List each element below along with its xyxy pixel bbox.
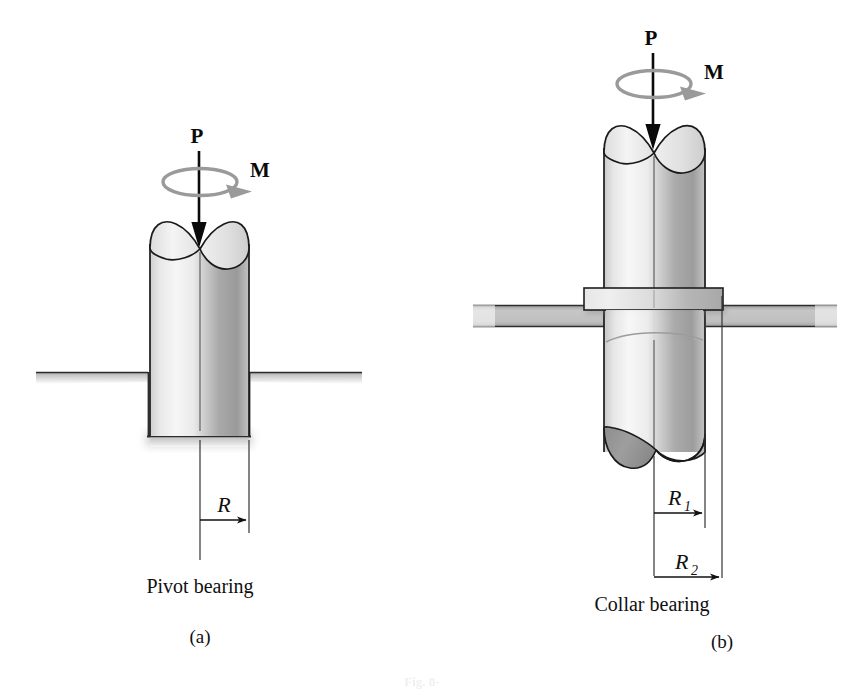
load-label-P-a: P (191, 124, 204, 148)
dimension-R-a: R (200, 440, 249, 560)
subfigure-collar-bearing: P M (473, 26, 837, 653)
part-label-b: (b) (711, 631, 733, 653)
engineering-figure: P M (0, 0, 845, 689)
shaft-below-collar-b (606, 310, 703, 342)
load-label-M-a: M (250, 158, 270, 182)
subfigure-pivot-bearing: P M (36, 124, 362, 648)
part-label-a: (a) (189, 626, 210, 648)
caption-pivot-bearing: Pivot bearing (146, 575, 253, 598)
figure-caption-fragment: Fig. 8- (404, 674, 439, 689)
dim-label-R-a: R (216, 492, 231, 517)
ground-left-a (36, 372, 148, 384)
load-label-P-b: P (645, 26, 658, 50)
torque-arrowhead-a (226, 185, 252, 199)
torque-arrowhead-b (680, 87, 706, 101)
dim-sub-R2-b: 2 (691, 563, 698, 578)
ground-right-a (249, 372, 362, 384)
dim-sub-R1-b: 1 (684, 499, 691, 514)
figure-canvas: P M (0, 0, 845, 689)
dim-label-R1-b: R (667, 485, 682, 510)
caption-collar-bearing: Collar bearing (595, 593, 710, 616)
load-label-M-b: M (704, 60, 724, 84)
shaft-a (150, 244, 249, 436)
dim-label-R2-b: R (674, 549, 689, 574)
